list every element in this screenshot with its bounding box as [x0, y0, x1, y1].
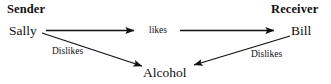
- node-alcohol: Alcohol: [143, 66, 187, 80]
- node-sally: Sally: [9, 24, 37, 38]
- edge-label-likes: likes: [149, 26, 167, 36]
- edge-label-dislikes-sally-alcohol: Dislikes: [52, 47, 83, 57]
- edge-label-dislikes-bill-alcohol: Dislikes: [251, 50, 282, 60]
- sender-heading: Sender: [7, 3, 45, 16]
- receiver-heading: Receiver: [271, 3, 318, 16]
- balance-theory-diagram: Sender Receiver Sally Bill Alcohol likes…: [0, 0, 331, 84]
- node-bill: Bill: [291, 24, 311, 38]
